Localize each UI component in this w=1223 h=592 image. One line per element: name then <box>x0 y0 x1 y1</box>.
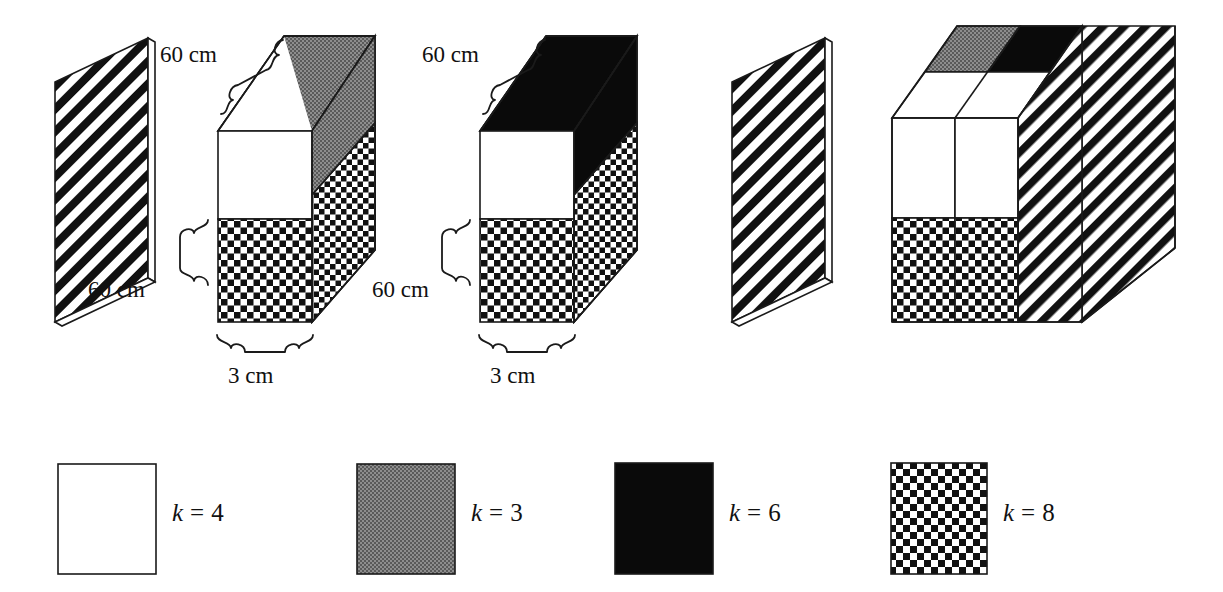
legend-label-3: k=8 <box>1003 499 1055 526</box>
label-assembly1-bottom: 3 cm <box>228 363 273 388</box>
legend-value-1: 3 <box>510 499 523 526</box>
legend-equals-2: = <box>747 499 761 526</box>
legend-k-symbol-0: k <box>172 499 184 526</box>
plate-right-striped <box>732 38 832 326</box>
legend-label-0: k=4 <box>172 499 224 526</box>
figure-root: 60 cm 60 cm 3 cm 60 cm 60 <box>0 0 1223 592</box>
legend-k-symbol-1: k <box>471 499 483 526</box>
cube-front-checker-left <box>892 218 955 322</box>
cube-front-checker-right <box>955 218 1018 322</box>
legend-equals-0: = <box>190 499 204 526</box>
legend-swatch-gray <box>357 464 455 574</box>
label-assembly1-top: 60 cm <box>160 42 217 67</box>
plate-right-front-face <box>732 38 825 322</box>
front-face-white-2 <box>480 131 574 219</box>
legend-swatch-checker <box>891 463 987 574</box>
label-assembly1-left: 60 cm <box>88 277 145 302</box>
legend-swatch-white <box>58 464 156 574</box>
legend-label-2: k=6 <box>729 499 781 526</box>
label-assembly2-bottom: 3 cm <box>490 363 535 388</box>
legend-k-symbol-2: k <box>729 499 741 526</box>
cube-front-white-left <box>892 118 955 218</box>
legend-value-2: 6 <box>768 499 781 526</box>
legend-k-symbol-3: k <box>1003 499 1015 526</box>
label-assembly2-top: 60 cm <box>422 42 479 67</box>
legend-equals-1: = <box>489 499 503 526</box>
legend-value-0: 4 <box>211 499 224 526</box>
legend-swatch-black <box>615 463 713 574</box>
cube-front-white-right <box>955 118 1018 218</box>
cube-combined <box>892 26 1175 322</box>
legend-label-1: k=3 <box>471 499 523 526</box>
diagram-svg: 60 cm 60 cm 3 cm 60 cm 60 <box>0 0 1223 592</box>
front-face-white <box>218 131 312 219</box>
front-face-checker-2 <box>480 219 574 322</box>
front-face-checker <box>218 219 312 322</box>
plate-right-edge-thickness <box>825 38 832 282</box>
legend-equals-3: = <box>1021 499 1035 526</box>
legend-value-3: 8 <box>1042 499 1055 526</box>
label-assembly2-left: 60 cm <box>372 277 429 302</box>
plate-left-edge-thickness <box>148 38 155 282</box>
